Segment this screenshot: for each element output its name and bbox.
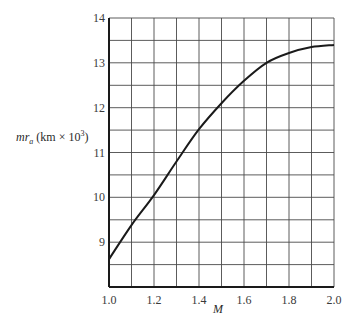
x-axis-label: M	[212, 302, 224, 316]
grid-lines	[109, 18, 334, 287]
y-tick-labels: 91011121314	[93, 11, 105, 249]
x-tick-label: 1.2	[147, 293, 162, 307]
y-axis-label: mra(km × 103)	[16, 129, 88, 146]
x-tick-label: 1.4	[192, 293, 207, 307]
y-tick-label: 10	[93, 190, 105, 204]
y-tick-label: 14	[93, 11, 105, 25]
x-tick-label: 2.0	[327, 293, 342, 307]
y-tick-label: 12	[93, 101, 105, 115]
x-tick-label: 1.8	[282, 293, 297, 307]
x-tick-label: 1.6	[237, 293, 252, 307]
y-tick-label: 13	[93, 56, 105, 70]
y-tick-label: 11	[93, 146, 105, 160]
x-tick-label: 1.0	[102, 293, 117, 307]
chart: 91011121314 1.01.21.41.61.82.0 mra(km × …	[0, 0, 359, 327]
y-tick-label: 9	[99, 235, 105, 249]
